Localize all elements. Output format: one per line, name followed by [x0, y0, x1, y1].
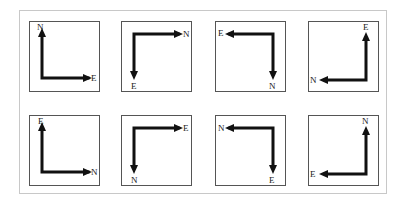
vertical-axis-label: N	[269, 82, 276, 91]
axis-panel-7: N E	[215, 115, 286, 186]
axis-panel-2: N E	[121, 21, 192, 92]
axis-panel-1: N E	[29, 21, 100, 92]
vertical-axis-label: N	[131, 176, 138, 185]
horizontal-axis-label: E	[91, 74, 97, 83]
corner-arrows-icon	[309, 116, 378, 185]
corner-arrows-icon	[30, 116, 99, 185]
horizontal-axis-label: N	[218, 124, 225, 133]
axis-panel-6: E N	[121, 115, 192, 186]
horizontal-axis-label: E	[183, 124, 189, 133]
vertical-axis-label: E	[269, 176, 275, 185]
horizontal-axis-label: E	[310, 170, 316, 179]
vertical-axis-label: N	[362, 117, 369, 126]
vertical-axis-label: E	[38, 117, 44, 126]
horizontal-axis-label: N	[183, 30, 190, 39]
axis-panel-5: E N	[29, 115, 100, 186]
axis-panel-3: E N	[215, 21, 286, 92]
horizontal-axis-label: E	[218, 29, 224, 38]
corner-arrows-icon	[309, 22, 378, 91]
horizontal-axis-label: N	[310, 76, 317, 85]
axis-panel-4: E N	[308, 21, 379, 92]
corner-arrows-icon	[30, 22, 99, 91]
horizontal-axis-label: N	[91, 168, 98, 177]
vertical-axis-label: E	[363, 23, 369, 32]
vertical-axis-label: E	[131, 82, 137, 91]
vertical-axis-label: N	[37, 23, 44, 32]
axis-panel-8: N E	[308, 115, 379, 186]
